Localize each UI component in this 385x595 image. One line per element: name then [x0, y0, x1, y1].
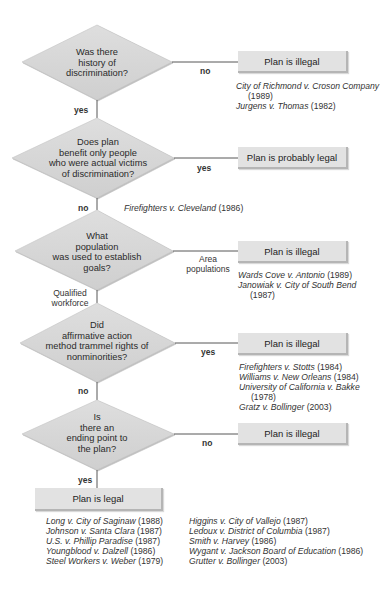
question-3: What population was used to establish go…: [47, 231, 147, 273]
outcome-box-illegal: Plan is illegal: [238, 333, 348, 355]
outcome-box-illegal: Plan is illegal: [238, 423, 348, 445]
case-citation: Long v. City of Saginaw (1988): [46, 516, 163, 526]
case-year: (1987): [238, 290, 356, 300]
case-citation: Firefighters v. Stotts (1984): [239, 362, 360, 372]
case-list: Firefighters v. Stotts (1984) Williams v…: [239, 362, 360, 412]
branch-label-no: no: [202, 438, 212, 448]
case-citation: Steel Workers v. Weber (1979): [46, 556, 163, 566]
case-list: Wards Cove v. Antonio (1989) Janowiak v.…: [238, 270, 356, 300]
question-2-line: of discrimination?: [43, 169, 153, 180]
case-citation: Gratz v. Bollinger (2003): [239, 402, 360, 412]
question-4-line: affirmative action: [42, 331, 152, 342]
case-citation: Jurgens v. Thomas (1982): [236, 101, 379, 111]
case-citation: University of California v. Bakke: [239, 382, 360, 392]
case-list: City of Richmond v. Croson Company (1989…: [236, 81, 379, 111]
case-list-left: Long v. City of Saginaw (1988) Johnson v…: [46, 516, 163, 566]
case-citation: Williams v. New Orleans (1984): [239, 372, 360, 382]
question-2-line: benefit only people: [43, 148, 153, 159]
case-citation: Wards Cove v. Antonio (1989): [238, 270, 356, 280]
question-4-line: Did: [42, 320, 152, 331]
case-citation: Wygant v. Jackson Board of Education (19…: [189, 546, 363, 556]
question-4-line: nonminorities?: [42, 352, 152, 363]
question-3-line: What: [47, 231, 147, 242]
branch-label-yes: yes: [78, 475, 92, 485]
question-2-line: Does plan: [43, 137, 153, 148]
outcome-box-illegal: Plan is illegal: [238, 241, 348, 263]
question-2: Does plan benefit only people who were a…: [43, 137, 153, 179]
case-year: (1989): [236, 91, 379, 101]
branch-label-yes: yes: [201, 347, 215, 357]
question-5: Is there an ending point to the plan?: [52, 412, 142, 454]
question-5-line: there an: [52, 423, 142, 434]
case-citation: City of Richmond v. Croson Company: [236, 81, 379, 91]
case-list-right: Higgins v. City of Vallejo (1987) Ledoux…: [189, 516, 363, 566]
question-3-line: population: [47, 242, 147, 253]
case-citation: Smith v. Harvey (1986): [189, 536, 363, 546]
question-1: Was there history of discrimination?: [47, 47, 147, 79]
case-year: (1978): [239, 392, 360, 402]
outcome-box-illegal: Plan is illegal: [238, 51, 348, 73]
case-citation: Higgins v. City of Vallejo (1987): [189, 516, 363, 526]
case-list: Firefighters v. Cleveland (1986): [124, 203, 243, 213]
question-2-line: who were actual victims: [43, 158, 153, 169]
branch-label-area-populations: Area populations: [183, 254, 233, 274]
branch-label-yes: yes: [197, 163, 211, 173]
outcome-box-legal: Plan is legal: [35, 488, 163, 511]
question-4: Did affirmative action method trammel ri…: [42, 320, 152, 362]
case-citation: Johnson v. Santa Clara (1987): [46, 526, 163, 536]
case-citation: Janowiak v. City of South Bend: [238, 280, 356, 290]
question-5-line: Is: [52, 412, 142, 423]
question-4-line: method trammel rights of: [42, 341, 152, 352]
flowchart: Was there history of discrimination? no …: [0, 0, 385, 595]
case-citation: U.S. v. Phillip Paradise (1987): [46, 536, 163, 546]
question-3-line: was used to establish: [47, 252, 147, 263]
question-1-line: discrimination?: [47, 68, 147, 79]
case-citation: Grutter v. Bollinger (2003): [189, 556, 363, 566]
question-1-line: Was there: [47, 47, 147, 58]
case-citation: Youngblood v. Dalzell (1986): [46, 546, 163, 556]
branch-label-no: no: [78, 203, 88, 213]
branch-label-no: no: [78, 386, 88, 396]
branch-label-no: no: [200, 66, 210, 76]
case-citation: Firefighters v. Cleveland (1986): [124, 203, 243, 213]
branch-label-qualified-workforce: Qualified workforce: [45, 288, 95, 308]
branch-label-yes: yes: [74, 105, 88, 115]
outcome-box-probably-legal: Plan is probably legal: [238, 147, 348, 169]
question-3-line: goals?: [47, 263, 147, 274]
question-1-line: history of: [47, 58, 147, 69]
question-5-line: the plan?: [52, 444, 142, 455]
case-citation: Ledoux v. District of Columbia (1987): [189, 526, 363, 536]
question-5-line: ending point to: [52, 433, 142, 444]
